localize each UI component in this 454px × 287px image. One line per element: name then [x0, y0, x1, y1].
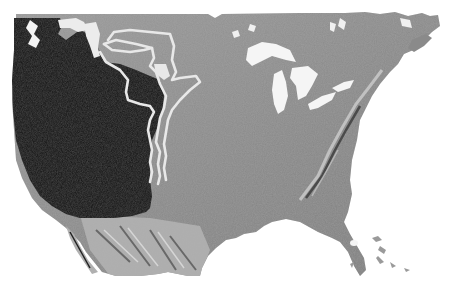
relief-map — [0, 0, 454, 287]
map-top-margin — [0, 0, 454, 12]
map-bottom-margin — [0, 276, 454, 287]
lake-okeechobee — [350, 240, 358, 246]
map-canvas — [0, 0, 454, 287]
